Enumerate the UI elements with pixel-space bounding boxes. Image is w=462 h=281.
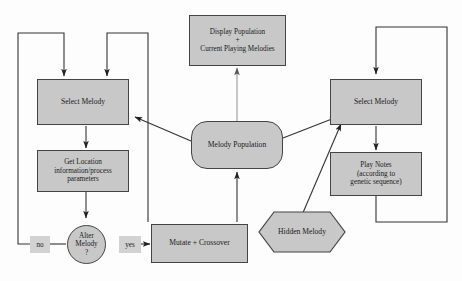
- node-display-population[interactable]: Display Population + Current Playing Mel…: [189, 15, 286, 66]
- edge-no-to-select-left: [18, 33, 64, 244]
- node-hidden-melody-label: Hidden Melody: [258, 228, 346, 237]
- select-melody-left-line-1: Select Melody: [40, 98, 126, 107]
- mutate-crossover-line-1: Mutate + Crossover: [154, 239, 245, 248]
- node-hidden-melody[interactable]: Hidden Melody: [258, 211, 346, 253]
- display-population-line-1: Display Population: [192, 28, 283, 36]
- melody-population-line-1: Melody Population: [194, 141, 280, 150]
- alter-melody-line-3: ?: [70, 249, 103, 257]
- display-population-line-2: +: [192, 36, 283, 44]
- node-select-melody-right-label: Select Melody: [331, 98, 421, 107]
- node-select-melody-right[interactable]: Select Melody: [330, 79, 422, 125]
- node-melody-population-label: Melody Population: [192, 141, 282, 150]
- flowchart-diagram: Display Population + Current Playing Mel…: [0, 0, 462, 281]
- alter-melody-line-2: Melody: [70, 240, 103, 248]
- edge-label-no: no: [30, 236, 50, 253]
- alter-melody-line-1: Alter: [70, 232, 103, 240]
- node-alter-melody-label: Alter Melody ?: [68, 232, 105, 257]
- node-mutate-crossover[interactable]: Mutate + Crossover: [151, 224, 248, 263]
- edge-population-to-select-right: [283, 117, 337, 138]
- node-select-melody-left-label: Select Melody: [38, 98, 128, 107]
- edge-label-yes-text: yes: [125, 241, 135, 249]
- play-notes-line-1: Play Notes: [333, 161, 419, 169]
- edge-population-to-select-left: [135, 117, 191, 141]
- node-get-location[interactable]: Get Location information/process paramet…: [37, 150, 129, 192]
- node-get-location-label: Get Location information/process paramet…: [38, 158, 128, 183]
- node-alter-melody[interactable]: Alter Melody ?: [67, 225, 106, 264]
- node-select-melody-left[interactable]: Select Melody: [37, 79, 129, 125]
- edge-label-yes: yes: [119, 236, 141, 253]
- node-melody-population[interactable]: Melody Population: [191, 121, 283, 169]
- node-play-notes[interactable]: Play Notes (according to genetic sequenc…: [330, 152, 422, 196]
- node-play-notes-label: Play Notes (according to genetic sequenc…: [331, 161, 421, 186]
- get-location-line-2: information/process: [40, 167, 126, 175]
- node-mutate-crossover-label: Mutate + Crossover: [152, 239, 247, 248]
- select-melody-right-line-1: Select Melody: [333, 98, 419, 107]
- get-location-line-3: parameters: [40, 175, 126, 183]
- display-population-line-3: Current Playing Melodies: [192, 45, 283, 53]
- hidden-melody-line-1: Hidden Melody: [260, 228, 344, 237]
- edge-mutate-to-select-left: [107, 33, 148, 222]
- node-display-population-label: Display Population + Current Playing Mel…: [190, 28, 285, 53]
- play-notes-line-3: genetic sequence): [333, 178, 419, 186]
- play-notes-line-2: (according to: [333, 170, 419, 178]
- edge-label-no-text: no: [36, 241, 43, 249]
- get-location-line-1: Get Location: [40, 158, 126, 166]
